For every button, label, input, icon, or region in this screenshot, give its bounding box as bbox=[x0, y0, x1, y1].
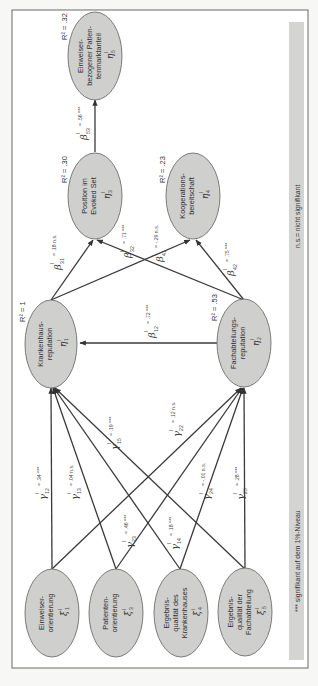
svg-text:13: 13 bbox=[76, 488, 82, 494]
legend-significance: *** signifikant auf dem 1%-Niveau bbox=[294, 510, 302, 612]
svg-text:3: 3 bbox=[128, 607, 134, 610]
svg-text:= .71 ***: = .71 *** bbox=[121, 225, 127, 244]
svg-text:l: l bbox=[121, 541, 127, 542]
svg-text:l: l bbox=[222, 269, 228, 270]
svg-text:l: l bbox=[106, 443, 112, 444]
svg-text:reputation: reputation bbox=[238, 327, 247, 359]
svg-text:= .56 ***: = .56 *** bbox=[77, 107, 83, 126]
svg-text:l: l bbox=[168, 430, 174, 431]
path-diagram: *** signifikant auf dem 1%-Niveau n.s.= … bbox=[0, 0, 318, 686]
node-xi5: Ergebnis- qualität der Fachabteilung ξ l… bbox=[218, 568, 272, 656]
svg-text:41: 41 bbox=[161, 250, 167, 256]
svg-text:l: l bbox=[254, 608, 260, 609]
svg-text:l: l bbox=[151, 255, 157, 256]
svg-text:23: 23 bbox=[131, 536, 137, 542]
svg-text:4: 4 bbox=[205, 190, 211, 193]
svg-text:= -.01 n.s.: = -.01 n.s. bbox=[200, 463, 206, 486]
svg-text:= .46 ***: = .46 *** bbox=[123, 515, 129, 534]
svg-text:orientierung: orientierung bbox=[46, 594, 55, 633]
svg-text:= .18 n.s.: = .18 n.s. bbox=[51, 235, 57, 257]
svg-text:bezogener Patien-: bezogener Patien- bbox=[85, 26, 94, 86]
svg-text:qualität der: qualität der bbox=[235, 593, 244, 630]
r2-eta3: R² = .30 bbox=[60, 156, 69, 183]
svg-text:bereitschaft: bereitschaft bbox=[187, 177, 196, 215]
r2-eta2: R² = .53 bbox=[210, 294, 219, 321]
svg-text:β: β bbox=[122, 252, 133, 259]
svg-text:Fachabteilung: Fachabteilung bbox=[244, 589, 253, 635]
r2-eta1: R² = 1 bbox=[18, 301, 27, 322]
svg-text:Position im: Position im bbox=[80, 178, 89, 214]
svg-text:β: β bbox=[78, 134, 89, 141]
svg-text:Fachabteilungs-: Fachabteilungs- bbox=[229, 316, 238, 368]
svg-text:l: l bbox=[119, 251, 125, 252]
svg-text:= .18 ***: = .18 *** bbox=[168, 517, 174, 536]
svg-text:l: l bbox=[190, 609, 196, 610]
svg-text:reputation: reputation bbox=[45, 328, 54, 360]
svg-text:tenmarktanteil: tenmarktanteil bbox=[94, 33, 103, 79]
svg-text:12: 12 bbox=[44, 488, 50, 494]
svg-text:4: 4 bbox=[197, 607, 203, 610]
svg-text:β: β bbox=[154, 256, 165, 263]
svg-text:32: 32 bbox=[129, 246, 135, 252]
svg-text:3: 3 bbox=[107, 190, 113, 193]
svg-text:l: l bbox=[75, 133, 81, 134]
svg-text:Krankenhauses: Krankenhauses bbox=[180, 587, 189, 638]
svg-text:5: 5 bbox=[261, 606, 267, 609]
svg-text:Patienten-: Patienten- bbox=[101, 596, 110, 630]
svg-text:l: l bbox=[66, 493, 72, 494]
svg-text:qualität des: qualität des bbox=[171, 594, 180, 632]
svg-text:l: l bbox=[121, 609, 127, 610]
svg-text:Einweiser-: Einweiser- bbox=[76, 38, 85, 73]
svg-text:l: l bbox=[103, 52, 109, 53]
svg-text:l: l bbox=[198, 192, 204, 193]
svg-text:β: β bbox=[52, 264, 63, 271]
svg-text:22: 22 bbox=[178, 425, 184, 431]
svg-text:l: l bbox=[232, 493, 238, 494]
svg-text:= -.29 n.s.: = -.29 n.s. bbox=[153, 225, 159, 248]
svg-text:l: l bbox=[100, 192, 106, 193]
svg-text:Kooperations-: Kooperations- bbox=[178, 173, 187, 219]
svg-text:Krankenhaus-: Krankenhaus- bbox=[36, 321, 45, 367]
svg-text:Einweiser-: Einweiser- bbox=[37, 595, 46, 630]
svg-text:Ergebnis-: Ergebnis- bbox=[226, 596, 235, 628]
svg-text:= .72 ***: = .72 *** bbox=[145, 305, 151, 324]
svg-text:1: 1 bbox=[63, 338, 69, 341]
svg-text:31: 31 bbox=[59, 258, 65, 264]
svg-text:5: 5 bbox=[110, 50, 116, 53]
r2-eta5: R² = .32 bbox=[60, 13, 69, 40]
node-xi1: Einweiser- orientierung ξ l 1 bbox=[25, 569, 79, 657]
svg-text:= .19 ***: = .19 *** bbox=[108, 417, 114, 436]
node-xi3: Patienten- orientierung ξ l 3 bbox=[89, 569, 143, 657]
svg-text:l: l bbox=[57, 609, 63, 610]
svg-text:12: 12 bbox=[153, 326, 159, 332]
svg-text:l: l bbox=[56, 340, 62, 341]
svg-text:l: l bbox=[143, 331, 149, 332]
svg-text:l: l bbox=[198, 493, 204, 494]
svg-text:l: l bbox=[166, 543, 172, 544]
svg-text:= .75 ***: = .75 *** bbox=[224, 243, 230, 262]
svg-text:= .12 n.s.: = .12 n.s. bbox=[170, 402, 176, 424]
svg-text:42: 42 bbox=[232, 264, 238, 270]
svg-text:53: 53 bbox=[85, 128, 91, 134]
svg-text:2: 2 bbox=[256, 337, 262, 340]
svg-text:l: l bbox=[49, 263, 55, 264]
svg-text:= .34 ***: = .34 *** bbox=[36, 467, 42, 486]
svg-text:Ergebnis-: Ergebnis- bbox=[162, 597, 171, 629]
svg-text:Evoked Set: Evoked Set bbox=[89, 177, 98, 214]
svg-text:25: 25 bbox=[242, 488, 248, 494]
legend-ns: n.s.= nicht signifikant bbox=[294, 185, 302, 248]
svg-text:β: β bbox=[146, 332, 157, 339]
svg-text:l: l bbox=[249, 339, 255, 340]
svg-text:24: 24 bbox=[208, 488, 214, 494]
svg-text:β: β bbox=[225, 270, 236, 277]
node-xi4: Ergebnis- qualität des Krankenhauses ξ l… bbox=[154, 569, 208, 657]
svg-text:orientierung: orientierung bbox=[110, 594, 119, 633]
svg-text:= .04 n.s.: = .04 n.s. bbox=[68, 465, 74, 487]
svg-text:1: 1 bbox=[64, 607, 70, 610]
svg-text:14: 14 bbox=[176, 538, 182, 544]
svg-text:l: l bbox=[34, 493, 40, 494]
svg-text:= .28 ***: = .28 *** bbox=[234, 467, 240, 486]
r2-eta4: R² = .23 bbox=[158, 156, 167, 183]
svg-text:15: 15 bbox=[116, 438, 122, 444]
